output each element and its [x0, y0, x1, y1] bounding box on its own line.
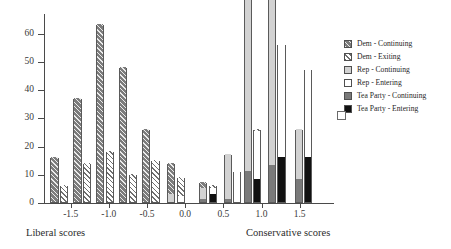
legend-label: Tea Party - Entering [357, 105, 418, 113]
chart-bar [268, 0, 276, 203]
bar-segment-rep-continuing [296, 129, 302, 180]
bar-segment-rep-continuing [245, 0, 251, 171]
bar-segment-rep-continuing [269, 0, 275, 165]
y-tick-label: 20 [0, 142, 34, 152]
legend-swatch [344, 66, 352, 74]
chart-bar [304, 70, 312, 203]
y-tick-mark [38, 90, 44, 91]
y-tick-label: 50 [0, 57, 34, 67]
y-tick-label: 40 [0, 85, 34, 95]
bar-segment-dem-exiting [107, 151, 113, 202]
bar-segment-tea-party-continuing [296, 179, 302, 202]
bar-segment-dem-continuing [74, 98, 80, 202]
x-tick-label: -1.5 [51, 210, 91, 220]
legend-swatch [344, 79, 352, 87]
chart-bar [277, 45, 285, 203]
chart-bar [129, 175, 137, 203]
chart-bar [244, 0, 252, 203]
x-tick-mark [300, 203, 301, 208]
bar-segment-dem-continuing [168, 163, 174, 194]
legend-item: Dem - Continuing [344, 38, 448, 50]
bar-segment-tea-party-continuing [245, 171, 251, 202]
bar-segment-dem-exiting [61, 185, 67, 202]
bar-segment-dem-exiting [178, 177, 184, 197]
y-axis-line [44, 14, 45, 204]
x-tick-mark [223, 203, 224, 208]
bar-segment-dem-continuing [120, 67, 126, 202]
bar-segment-dem-continuing [143, 129, 149, 202]
y-tick-mark [38, 62, 44, 63]
y-tick-mark [38, 175, 44, 176]
legend-item: Tea Party - Entering [344, 103, 448, 115]
chart-bar [167, 164, 175, 203]
x-tick-label: -0.5 [127, 210, 167, 220]
y-tick-label: 0 [0, 198, 34, 208]
bar-segment-dem-exiting [254, 129, 260, 132]
x-tick-mark [147, 203, 148, 208]
x-tick-mark [109, 203, 110, 208]
chart-bar [50, 158, 58, 203]
bar-segment-rep-continuing [225, 154, 231, 199]
chart-legend: Dem - ContinuingDem - ExitingRep - Conti… [344, 38, 448, 116]
legend-label: Tea Party - Continuing [357, 92, 426, 100]
y-tick-mark [38, 34, 44, 35]
legend-item: Rep - Continuing [344, 64, 448, 76]
legend-swatch [344, 92, 352, 100]
x-tick-label: 0.5 [203, 210, 243, 220]
x-tick-label: 1.5 [280, 210, 320, 220]
bar-segment-dem-exiting [152, 160, 158, 202]
bar-segment-rep-entering [278, 44, 284, 157]
chart-bar [151, 161, 159, 203]
legend-item: Rep - Entering [344, 77, 448, 89]
x-axis-label-left: Liberal scores [26, 228, 85, 239]
bar-segment-dem-continuing [97, 24, 103, 202]
bar-segment-dem-exiting [130, 174, 136, 202]
bar-segment-rep-entering [210, 188, 216, 194]
y-tick-mark [38, 147, 44, 148]
bar-segment-dem-exiting [210, 185, 216, 188]
legend-extra-swatch [337, 111, 346, 120]
bar-segment-tea-party-continuing [200, 199, 206, 202]
bar-segment-rep-entering [254, 131, 260, 179]
x-tick-mark [262, 203, 263, 208]
y-tick-mark [38, 203, 44, 204]
x-tick-label: 1.0 [242, 210, 282, 220]
bar-segment-rep-continuing [200, 188, 206, 199]
bar-segment-dem-exiting [84, 163, 90, 202]
y-tick-mark [38, 118, 44, 119]
x-tick-label: -1.0 [89, 210, 129, 220]
legend-swatch [344, 53, 352, 61]
x-tick-mark [71, 203, 72, 208]
bar-segment-rep-entering [234, 171, 240, 202]
chart-canvas: 0102030405060 -1.5-1.0-0.50.00.51.01.5 L… [0, 0, 451, 249]
bar-segment-tea-party-entering [278, 157, 284, 202]
legend-item: Tea Party - Continuing [344, 90, 448, 102]
chart-bar [96, 25, 104, 203]
bar-segment-tea-party-entering [254, 179, 260, 202]
chart-bar [60, 186, 68, 203]
bar-segment-tea-party-entering [210, 194, 216, 202]
bar-segment-dem-continuing [200, 182, 206, 188]
bar-segment-tea-party-continuing [269, 165, 275, 202]
x-axis-line [44, 203, 334, 204]
chart-bar [253, 130, 261, 203]
chart-bar [177, 178, 185, 203]
chart-bar [233, 172, 241, 203]
y-tick-label: 10 [0, 170, 34, 180]
y-tick-label: 30 [0, 113, 34, 123]
chart-bar [106, 152, 114, 203]
legend-label: Dem - Continuing [357, 40, 412, 48]
legend-label: Rep - Continuing [357, 66, 410, 74]
chart-bar [199, 183, 207, 203]
chart-bar [119, 68, 127, 203]
x-axis-label-right: Conservative scores [246, 228, 330, 239]
x-tick-label: 0.0 [165, 210, 205, 220]
legend-swatch [344, 40, 352, 48]
chart-bar [295, 130, 303, 203]
chart-bar [142, 130, 150, 203]
bar-segment-tea-party-entering [305, 157, 311, 202]
chart-bar [209, 186, 217, 203]
bar-segment-rep-continuing [168, 194, 174, 202]
legend-label: Dem - Exiting [357, 53, 400, 61]
x-tick-mark [185, 203, 186, 208]
